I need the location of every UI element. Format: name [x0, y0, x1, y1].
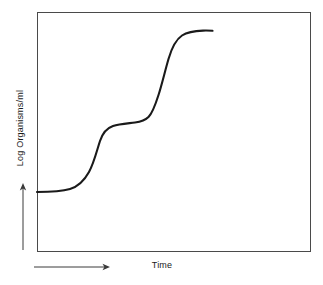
y-direction-arrow — [20, 183, 26, 250]
x-direction-arrow — [34, 264, 110, 270]
chart-canvas — [0, 0, 323, 285]
plot-frame — [38, 13, 311, 252]
y-axis-label: Log Organisms/ml — [15, 68, 25, 188]
x-axis-label: Time — [132, 260, 192, 270]
growth-curve-figure: Log Organisms/ml Time — [0, 0, 323, 285]
growth-curve-line — [37, 31, 213, 192]
